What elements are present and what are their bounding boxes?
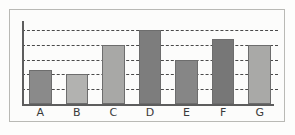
bar-f: [212, 39, 235, 104]
bar-d: [139, 30, 162, 104]
plot-area: ABCDEFG: [10, 10, 286, 123]
x-tick-label-f: F: [205, 106, 242, 120]
bar-b: [66, 74, 89, 104]
x-tick-label-d: D: [132, 106, 169, 120]
x-tick-label-e: E: [168, 106, 205, 120]
chart-frame: ABCDEFG: [9, 9, 285, 122]
bar-e: [175, 60, 198, 104]
x-tick-labels-group: ABCDEFG: [22, 106, 278, 122]
chart-figure: ABCDEFG: [0, 0, 295, 135]
x-tick-label-g: G: [241, 106, 278, 120]
bar-c: [102, 45, 125, 104]
x-tick-label-c: C: [95, 106, 132, 120]
bar-a: [29, 70, 52, 104]
x-tick-label-b: B: [59, 106, 96, 120]
bar-g: [248, 45, 271, 104]
x-tick-label-a: A: [22, 106, 59, 120]
bars-group: [22, 10, 278, 104]
